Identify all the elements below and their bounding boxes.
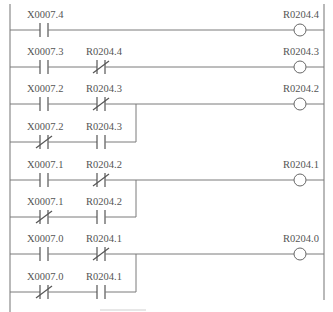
ladder-diagram: X0007.4 R0204.4 X0007.3 R0204.4 R0204.3 <box>0 0 333 312</box>
coil-label: R0204.1 <box>283 159 319 170</box>
no-contact-icon <box>40 247 48 261</box>
coil-label: R0204.2 <box>283 83 319 94</box>
rung-4: X0007.1 R0204.2 X0007.1 R0204.2 R0204.1 <box>10 159 324 224</box>
coil-icon <box>294 248 306 260</box>
rung-3: X0007.2 R0204.3 X0007.2 R0204.3 R0204.2 <box>10 83 324 149</box>
coil-label: R0204.4 <box>283 9 320 20</box>
contact-label: X0007.0 <box>27 233 63 244</box>
contact-label: R0204.1 <box>86 233 122 244</box>
contact-label: X0007.1 <box>27 159 63 170</box>
coil-icon <box>294 98 306 110</box>
contact-label: R0204.4 <box>86 46 123 57</box>
rung-2: X0007.3 R0204.4 R0204.3 <box>10 46 324 74</box>
coil-label: R0204.0 <box>283 233 319 244</box>
contact-label: X0007.2 <box>27 121 63 132</box>
coil-icon <box>294 174 306 186</box>
contact-label: R0204.3 <box>86 83 122 94</box>
contact-label: R0204.1 <box>86 271 122 282</box>
rung-5: X0007.0 R0204.1 X0007.0 R0204.1 R0204.0 <box>10 233 324 299</box>
contact-label: X0007.4 <box>27 9 64 20</box>
no-contact-icon <box>40 60 48 74</box>
coil-icon <box>294 61 306 73</box>
no-contact-icon <box>40 97 48 111</box>
contact-label: R0204.2 <box>86 159 122 170</box>
coil-icon <box>294 24 306 36</box>
no-contact-icon <box>40 23 48 37</box>
contact-label: X0007.3 <box>27 46 63 57</box>
contact-label: X0007.1 <box>27 196 63 207</box>
no-contact-icon <box>97 210 105 224</box>
no-contact-icon <box>40 173 48 187</box>
contact-label: R0204.3 <box>86 121 122 132</box>
contact-label: X0007.0 <box>27 271 63 282</box>
contact-label: X0007.2 <box>27 83 63 94</box>
no-contact-icon <box>97 285 105 299</box>
rung-1: X0007.4 R0204.4 <box>10 9 324 37</box>
contact-label: R0204.2 <box>86 196 122 207</box>
no-contact-icon <box>97 135 105 149</box>
coil-label: R0204.3 <box>283 46 319 57</box>
